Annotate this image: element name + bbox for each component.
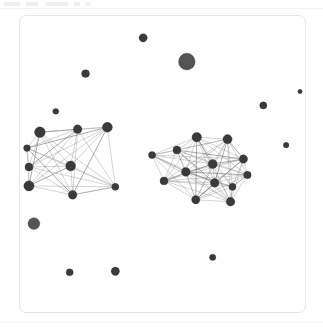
graph-node[interactable] [34,127,45,138]
figure-container [0,0,323,336]
graph-edge [29,166,71,186]
graph-edge [186,137,197,172]
graph-panel [19,15,306,313]
graph-node[interactable] [283,142,289,148]
bottom-divider [0,322,323,323]
graph-node[interactable] [209,254,215,260]
graph-edge [40,132,71,166]
graph-node[interactable] [208,159,217,168]
top-tick-marks [2,2,122,7]
tick-mark-0 [4,2,20,6]
tick-mark-1 [26,2,38,6]
graph-node[interactable] [25,163,33,171]
graph-node[interactable] [229,183,236,190]
graph-node[interactable] [192,132,202,142]
graph-node[interactable] [239,155,247,163]
graph-node[interactable] [260,102,267,109]
tick-mark-2 [46,2,68,6]
graph-node[interactable] [53,108,59,114]
graph-node[interactable] [298,89,302,93]
graph-node[interactable] [223,135,232,144]
graph-node[interactable] [82,70,90,78]
graph-node[interactable] [192,196,200,204]
graph-edge [231,159,244,202]
top-divider [0,8,323,9]
graph-node[interactable] [28,218,40,230]
graph-edge [73,187,116,195]
graph-node[interactable] [24,181,34,191]
tick-mark-3 [74,2,80,6]
graph-node[interactable] [160,177,168,185]
graph-node[interactable] [111,267,119,275]
graph-edge [29,132,40,186]
graph-node[interactable] [66,161,76,171]
graph-edge [152,155,164,181]
graph-node[interactable] [173,146,181,154]
graph-edge [71,129,78,166]
graph-edge [73,127,108,195]
graph-edge [107,127,115,187]
graph-node[interactable] [148,151,155,158]
graph-node[interactable] [66,269,73,276]
graph-edge [40,132,115,187]
graph-node[interactable] [24,145,31,152]
graph-node[interactable] [181,168,190,177]
graph-node[interactable] [112,183,119,190]
network-graph[interactable] [20,16,305,312]
graph-edge [29,186,73,195]
graph-node[interactable] [210,179,219,188]
graph-node[interactable] [68,190,77,199]
graph-node[interactable] [139,34,147,42]
node-layer [24,34,303,276]
graph-node[interactable] [102,122,112,132]
graph-node[interactable] [244,171,252,179]
graph-edge [29,166,71,167]
tick-mark-4 [86,2,90,6]
graph-node[interactable] [178,53,195,70]
graph-node[interactable] [73,125,82,134]
graph-node[interactable] [226,197,235,206]
